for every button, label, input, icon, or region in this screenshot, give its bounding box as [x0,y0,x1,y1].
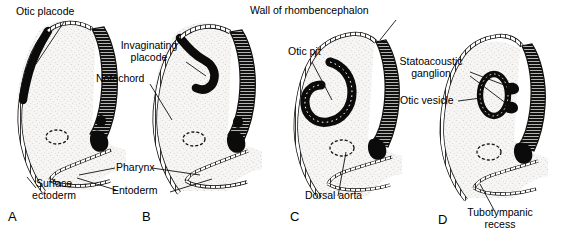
figure-drawing [0,0,566,241]
label-surface-ectoderm-line2: ectoderm [22,190,86,202]
label-statoacoustic-ganglion-line2: ganglion [392,68,470,80]
panel-letter-a: A [8,209,17,224]
panel-a-drawing [17,20,126,192]
label-notochord: Notochord [96,73,144,85]
notochord-b-dot [233,116,243,128]
label-pharynx: Pharynx [116,162,155,174]
label-invaginating-placode-line2: placode [112,52,186,64]
embryology-figure: Otic placode Surface ectoderm Invaginati… [0,0,566,241]
panel-letter-d: D [438,212,447,227]
label-wall-of-rhombencephalon: Wall of rhombencephalon [250,5,369,17]
label-statoacoustic-ganglion-line1: Statoacoustic [392,56,470,68]
panel-letter-c: C [290,209,299,224]
label-otic-vesicle: Otic vesicle [400,95,454,107]
label-tubotympanic-recess-line2: recess [460,219,540,231]
notochord-a-dot [96,115,106,127]
panel-letter-b: B [142,209,151,224]
label-statoacoustic-ganglion: Statoacoustic ganglion [392,56,470,79]
label-tubotympanic-recess: Tubotympanic recess [460,207,540,230]
label-surface-ectoderm: Surface ectoderm [22,178,86,201]
label-tubotympanic-recess-line1: Tubotympanic [460,207,540,219]
label-dorsal-aorta: Dorsal aorta [305,190,362,202]
leader-wall-rhombencephalon [380,20,396,40]
label-entoderm: Entoderm [112,185,158,197]
label-otic-placode: Otic placode [16,6,74,18]
label-invaginating-placode-line1: Invaginating [112,40,186,52]
label-surface-ectoderm-line1: Surface [22,178,86,190]
rhombencephalon-wall-d [518,44,545,151]
label-otic-pit: Otic pit [288,46,321,58]
label-invaginating-placode: Invaginating placode [112,40,186,63]
